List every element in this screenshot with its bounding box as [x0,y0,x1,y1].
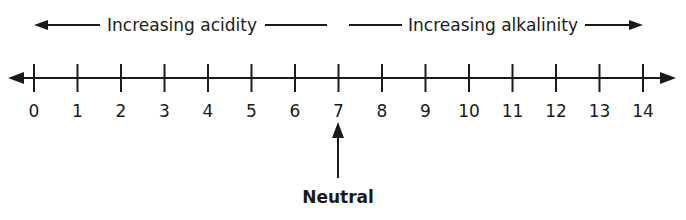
number-line: 01234567891011121314 [8,64,676,121]
left-arrow-icon [34,20,48,30]
tick-label: 9 [420,101,431,121]
axis-right-arrowhead-icon [660,72,676,84]
tick-label: 13 [589,101,611,121]
tick-label: 2 [116,101,127,121]
alkalinity-label: Increasing alkalinity [408,15,578,35]
acidity-label: Increasing acidity [107,15,257,35]
tick-label: 11 [502,101,524,121]
tick-label: 4 [203,101,214,121]
alkalinity-direction: Increasing alkalinity [349,15,643,35]
acidity-direction: Increasing acidity [34,15,327,35]
neutral-label: Neutral [302,187,374,207]
tick-label: 0 [29,101,40,121]
tick-label: 8 [377,101,388,121]
tick-label: 12 [545,101,567,121]
ph-scale-diagram: Increasing acidity Increasing alkalinity… [0,0,686,220]
tick-label: 5 [246,101,257,121]
up-arrow-icon [332,122,344,138]
tick-labels: 01234567891011121314 [29,101,654,121]
neutral-marker: Neutral [302,122,374,207]
tick-label: 7 [333,101,344,121]
tick-label: 14 [632,101,654,121]
tick-label: 3 [159,101,170,121]
tick-label: 1 [72,101,83,121]
right-arrow-icon [629,20,643,30]
tick-label: 6 [290,101,301,121]
tick-label: 10 [458,101,480,121]
axis-left-arrowhead-icon [8,72,24,84]
